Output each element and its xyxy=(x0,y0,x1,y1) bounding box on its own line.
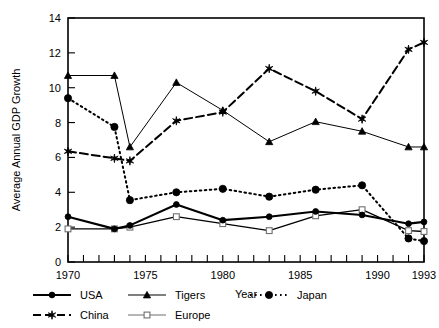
series-europe xyxy=(65,207,427,235)
legend-label-china: China xyxy=(80,309,110,321)
marker-usa-1973 xyxy=(112,226,118,232)
x-tick-label-1993: 1993 xyxy=(412,269,436,281)
y-tick-label-14: 14 xyxy=(49,12,61,24)
legend-label-tigers: Tigers xyxy=(175,289,206,301)
legend-marker-japan xyxy=(265,291,272,298)
y-axis-title: Average Annual GDP Growth xyxy=(10,69,22,212)
legend-label-usa: USA xyxy=(80,289,103,301)
legend-marker-usa xyxy=(49,292,55,298)
marker-usa-1980 xyxy=(220,217,226,223)
y-tick-label-12: 12 xyxy=(49,47,61,59)
marker-china-1993 xyxy=(420,38,427,47)
series-japan xyxy=(64,95,427,245)
y-tick-label-6: 6 xyxy=(55,151,61,163)
marker-japan-1986 xyxy=(312,186,319,193)
data-series-layer xyxy=(64,38,427,245)
legend-label-europe: Europe xyxy=(175,309,210,321)
legend-item-usa[interactable]: USA xyxy=(33,289,103,301)
plot-area-frame xyxy=(68,18,424,262)
legend-label-japan: Japan xyxy=(297,289,327,301)
marker-europe-1992 xyxy=(406,228,412,234)
legend-item-tigers[interactable]: Tigers xyxy=(128,289,206,301)
legend-item-japan[interactable]: Japan xyxy=(250,289,327,301)
plot-border xyxy=(68,18,424,262)
x-tick-label-1970: 1970 xyxy=(56,269,80,281)
marker-japan-1992 xyxy=(405,235,412,242)
legend-item-europe[interactable]: Europe xyxy=(128,309,210,321)
series-line-japan xyxy=(68,98,424,241)
marker-tigers-1986 xyxy=(312,118,319,125)
marker-japan-1973 xyxy=(111,123,118,130)
marker-usa-1970 xyxy=(65,214,71,220)
x-axis-ticks xyxy=(68,255,424,262)
marker-europe-1983 xyxy=(266,228,272,234)
marker-usa-1983 xyxy=(266,214,272,220)
marker-tigers-1977 xyxy=(173,79,180,86)
series-line-usa xyxy=(68,204,424,228)
marker-usa-1986 xyxy=(313,209,319,215)
series-line-tigers xyxy=(68,76,424,147)
x-tick-label-1985: 1985 xyxy=(288,269,312,281)
marker-japan-1974 xyxy=(126,197,133,204)
marker-china-1986 xyxy=(312,87,319,96)
marker-tigers-1974 xyxy=(126,143,133,150)
marker-europe-1993 xyxy=(421,229,427,235)
marker-europe-1977 xyxy=(173,214,179,220)
x-tick-label-1980: 1980 xyxy=(211,269,235,281)
chart-canvas: 02468101214 197019751980198519901993 Yea… xyxy=(0,0,439,328)
chart-legend: USATigersJapanChinaEurope xyxy=(33,289,327,321)
marker-usa-1989 xyxy=(359,212,365,218)
marker-japan-1970 xyxy=(64,95,71,102)
series-tigers xyxy=(64,72,427,150)
x-axis-tick-labels: 197019751980198519901993 xyxy=(56,269,436,281)
gdp-growth-chart: 02468101214 197019751980198519901993 Yea… xyxy=(0,0,439,328)
x-tick-label-1975: 1975 xyxy=(133,269,157,281)
marker-japan-1983 xyxy=(266,193,273,200)
series-line-china xyxy=(68,42,424,161)
marker-usa-1993 xyxy=(421,219,427,225)
y-tick-label-0: 0 xyxy=(55,256,61,268)
marker-japan-1977 xyxy=(173,189,180,196)
x-tick-label-1990: 1990 xyxy=(365,269,389,281)
legend-item-china[interactable]: China xyxy=(33,309,110,321)
y-tick-label-4: 4 xyxy=(55,186,61,198)
legend-marker-europe xyxy=(144,312,150,318)
marker-japan-1989 xyxy=(358,182,365,189)
y-axis-tick-labels: 02468101214 xyxy=(49,12,61,268)
marker-tigers-1983 xyxy=(266,138,273,145)
marker-usa-1977 xyxy=(173,202,179,208)
marker-usa-1974 xyxy=(127,223,133,229)
marker-japan-1980 xyxy=(219,185,226,192)
x-axis-title: Year xyxy=(235,288,258,300)
y-tick-label-8: 8 xyxy=(55,117,61,129)
marker-usa-1992 xyxy=(406,221,412,227)
y-tick-label-10: 10 xyxy=(49,82,61,94)
y-axis-ticks xyxy=(68,18,75,262)
y-tick-label-2: 2 xyxy=(55,221,61,233)
marker-europe-1970 xyxy=(65,226,71,232)
marker-japan-1993 xyxy=(420,237,427,244)
